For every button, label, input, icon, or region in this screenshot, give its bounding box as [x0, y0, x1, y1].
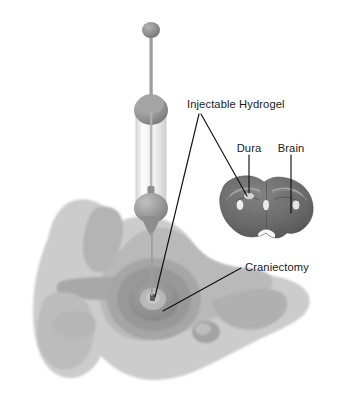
- skull-bulla-highlight: [195, 323, 211, 335]
- label-brain: Brain: [278, 142, 305, 154]
- syringe-plunger-rod: [150, 32, 153, 100]
- syringe-barrel-highlight: [141, 112, 146, 204]
- ventricle-left: [237, 200, 244, 210]
- figure-root: Injectable Hydrogel Dura Brain Craniecto…: [0, 0, 341, 408]
- injectable-hydrogel-figure: Injectable Hydrogel Dura Brain Craniecto…: [0, 0, 341, 408]
- leader-hydrogel-to-brain: [201, 114, 247, 196]
- label-injectable-hydrogel: Injectable Hydrogel: [187, 98, 285, 110]
- syringe-plunger-seal: [148, 186, 155, 194]
- syringe-needle: [151, 232, 153, 296]
- syringe-inner-shaft: [150, 112, 153, 190]
- ventricle-right: [293, 200, 300, 209]
- craniectomy-region: [107, 258, 201, 340]
- label-craniectomy: Craniectomy: [245, 261, 309, 273]
- label-dura: Dura: [237, 142, 262, 154]
- ventricle-center: [263, 200, 269, 210]
- skull-left-fossa: [52, 311, 96, 339]
- syringe-plunger-flange-top: [138, 94, 164, 114]
- syringe-plunger-knob: [142, 22, 160, 38]
- coronal-brain-section: [220, 176, 314, 242]
